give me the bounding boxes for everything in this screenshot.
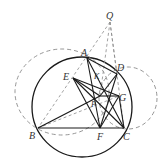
label-D: D: [117, 63, 124, 73]
label-C: C: [123, 132, 130, 142]
label-B: B: [29, 131, 35, 141]
geometry-figure: Q A D E K P G B F C: [0, 0, 168, 168]
label-A: A: [81, 48, 87, 58]
label-P: P: [91, 101, 96, 109]
label-K: K: [94, 73, 99, 81]
label-F: F: [97, 132, 103, 142]
label-Q: Q: [106, 11, 113, 21]
segment-DF: [100, 74, 117, 128]
segment-BG: [38, 96, 119, 128]
dashed-lines: [38, 22, 124, 128]
label-G: G: [119, 93, 126, 103]
geometry-canvas: [0, 0, 168, 168]
label-E: E: [63, 72, 69, 82]
